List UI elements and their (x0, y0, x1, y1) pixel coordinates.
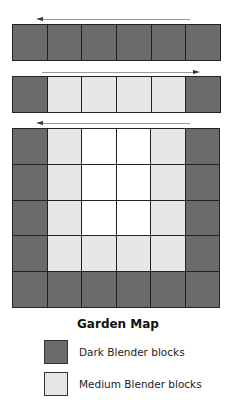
block-dark (13, 236, 47, 271)
block-dark (13, 201, 47, 236)
block-medium (151, 236, 185, 271)
block-white (117, 129, 151, 164)
block-dark (48, 272, 82, 307)
strip-2-grid (12, 76, 221, 113)
direction-arrow-left-1 (42, 19, 190, 20)
block-white (117, 165, 151, 200)
block-white (82, 201, 116, 236)
block-dark (151, 272, 185, 307)
block-dark (13, 272, 47, 307)
block-dark (13, 77, 47, 112)
block-dark (117, 25, 151, 60)
medium-swatch (44, 372, 68, 396)
block-medium (151, 129, 185, 164)
block-dark (186, 77, 220, 112)
block-white (117, 201, 151, 236)
block-medium (152, 77, 186, 112)
strip-1-grid (12, 24, 221, 61)
block-dark (13, 25, 47, 60)
block-dark (13, 129, 47, 164)
block-dark (117, 272, 151, 307)
block-dark (186, 129, 220, 164)
legend-item-medium: Medium Blender blocks (44, 372, 202, 396)
block-medium (48, 129, 82, 164)
block-dark (186, 201, 220, 236)
block-medium (48, 165, 82, 200)
block-medium (117, 77, 151, 112)
block-dark (152, 25, 186, 60)
block-medium (151, 165, 185, 200)
legend-item-dark: Dark Blender blocks (44, 340, 185, 364)
block-white (82, 165, 116, 200)
block-dark (186, 25, 220, 60)
block-medium (48, 236, 82, 271)
legend-title: Garden Map (0, 317, 236, 331)
block-medium (117, 236, 151, 271)
block-dark (186, 272, 220, 307)
block-medium (48, 201, 82, 236)
block-dark (48, 25, 82, 60)
direction-arrow-right-2 (42, 72, 194, 73)
block-medium (48, 77, 82, 112)
block-medium (82, 236, 116, 271)
block-dark (186, 165, 220, 200)
block-medium (151, 201, 185, 236)
block-white (82, 129, 116, 164)
legend-label-dark: Dark Blender blocks (79, 346, 185, 358)
block-dark (82, 25, 116, 60)
block-dark (13, 165, 47, 200)
legend-label-medium: Medium Blender blocks (79, 378, 202, 390)
garden-map-grid (12, 128, 220, 308)
dark-swatch (44, 340, 68, 364)
block-dark (186, 236, 220, 271)
block-medium (82, 77, 116, 112)
block-dark (82, 272, 116, 307)
direction-arrow-left-3 (42, 123, 190, 124)
